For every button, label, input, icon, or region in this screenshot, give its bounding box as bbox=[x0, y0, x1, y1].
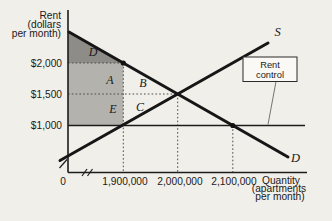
y-tick-1500: $1,500 bbox=[31, 89, 62, 100]
region-a-shade bbox=[68, 63, 123, 94]
x-tick-2000000: 2,000,000 bbox=[157, 176, 203, 187]
marked-point-2100000-1000 bbox=[230, 123, 235, 128]
region-e-label: E bbox=[108, 102, 117, 116]
x-axis-title-line3: per month) bbox=[255, 191, 304, 202]
region-c-label: C bbox=[136, 100, 145, 114]
callout-leader-line bbox=[268, 82, 276, 125]
region-b-label: B bbox=[139, 76, 147, 90]
y-tick-2000: $2,000 bbox=[31, 58, 62, 69]
x-tick-1900000: 1,900,000 bbox=[102, 176, 148, 187]
supply-curve-label: S bbox=[274, 25, 281, 39]
y-tick-1000: $1,000 bbox=[31, 120, 62, 131]
rent-control-figure: Rent control Rent (dollars per month) $2… bbox=[0, 0, 332, 221]
y-axis-title-line3: per month) bbox=[12, 28, 61, 39]
chart-canvas: Rent control Rent (dollars per month) $2… bbox=[0, 0, 332, 221]
x-tick-0: 0 bbox=[60, 176, 66, 187]
x-tick-2100000: 2,100,000 bbox=[211, 176, 257, 187]
marked-point-1900000-2000 bbox=[121, 60, 126, 65]
demand-curve-label: D bbox=[290, 151, 300, 165]
rent-control-callout-line2: control bbox=[256, 70, 284, 80]
region-a-label: A bbox=[105, 73, 114, 87]
rent-control-callout-line1: Rent bbox=[260, 60, 280, 70]
region-d-label: D bbox=[88, 45, 98, 59]
